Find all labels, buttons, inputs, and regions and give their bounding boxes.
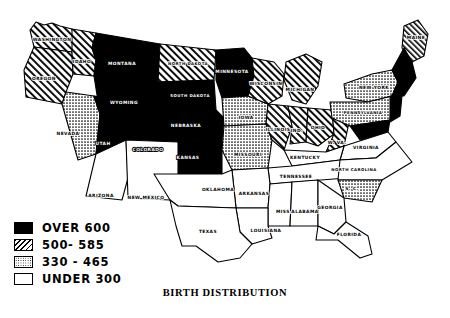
map-legend: OVER 600 500- 585 330 - 465 UNDER 300 [14, 220, 164, 288]
state-nevada [62, 92, 100, 160]
state-label-minnesota: MINNESOTA [215, 69, 248, 74]
state-label-louisiana: LOUISIANA [251, 228, 282, 233]
state-label-florida: FLORIDA [337, 232, 362, 237]
state-label-maine: MAINE [407, 35, 425, 40]
state-label-tennessee: TENNESSEE [280, 174, 313, 179]
state-label-michigan: MICHIGAN [286, 87, 315, 92]
state-label-indiana: IND. [291, 128, 303, 133]
state-alabama [290, 180, 318, 226]
state-label-south-carolina: S. C. [345, 186, 359, 191]
state-label-south-dakota: SOUTH DAKOTA [170, 93, 210, 98]
state-label-idaho: IDAHO [73, 59, 91, 64]
legend-item-330-465: 330 - 465 [14, 254, 164, 270]
legend-swatch-500-585 [14, 239, 33, 251]
state-new-jersey-delaware-maryland [390, 96, 402, 122]
state-label-wyoming: WYOMING [110, 100, 138, 105]
state-michigan [284, 54, 322, 104]
birth-distribution-map: WASHINGTONOREGONIDAHOMONTANANORTH DAKOTA… [0, 0, 450, 318]
state-label-alabama: ALABAMA [291, 209, 318, 214]
state-montana [92, 33, 160, 82]
state-label-kentucky: KENTUCKY [290, 155, 320, 160]
legend-swatch-330-465 [14, 256, 33, 268]
state-label-kansas: KANSAS [177, 155, 200, 160]
state-label-mississippi: MISS. [276, 209, 292, 214]
legend-item-under-300: UNDER 300 [14, 271, 164, 287]
legend-item-over-600: OVER 600 [14, 220, 164, 236]
state-label-virginia: VIRGINIA [353, 145, 379, 150]
state-label-utah: UTAH [95, 141, 110, 146]
state-label-montana: MONTANA [108, 61, 136, 66]
state-arkansas [232, 168, 270, 208]
state-missouri [222, 124, 272, 170]
state-label-nevada: NEVADA [57, 131, 80, 136]
state-label-north-carolina: NORTH CAROLINA [331, 167, 376, 172]
state-label-georgia: GEORGIA [317, 205, 343, 210]
state-label-colorado: COLORADO [132, 147, 163, 152]
legend-label-over-600: OVER 600 [42, 221, 111, 235]
legend-label-500-585: 500- 585 [42, 238, 104, 252]
state-label-arkansas: ARKANSAS [239, 191, 270, 196]
state-label-nebraska: NEBRASKA [171, 123, 202, 128]
state-idaho [72, 29, 96, 76]
state-mississippi [268, 182, 292, 226]
state-label-illinois: ILLINOIS [266, 127, 291, 132]
figure-title: BIRTH DISTRIBUTION [0, 287, 450, 298]
state-label-oregon: OREGON [32, 76, 56, 81]
legend-label-under-300: UNDER 300 [42, 272, 122, 286]
state-label-north-dakota: NORTH DAKOTA [168, 61, 208, 66]
state-label-arizona: ARIZONA [88, 193, 114, 198]
state-label-iowa: IOWA [238, 115, 253, 120]
legend-swatch-under-300 [14, 273, 33, 285]
state-label-texas: TEXAS [199, 229, 217, 234]
state-label-west-virginia: W. VA. [328, 140, 347, 145]
state-label-missouri: MISSOURI [234, 152, 262, 157]
state-label-pennsylvania: PENNSYLVANIA [344, 110, 382, 115]
legend-swatch-over-600 [14, 222, 33, 234]
state-label-new-mexico: NEW MEXICO [128, 195, 165, 200]
state-label-ohio: OHIO [311, 125, 326, 130]
legend-label-330-465: 330 - 465 [42, 255, 109, 269]
state-label-wisconsin: WISCONSIN [250, 81, 283, 86]
state-colorado [126, 100, 180, 142]
legend-item-500-585: 500- 585 [14, 237, 164, 253]
state-label-new-york: NEW YORK [359, 85, 389, 90]
state-label-oklahoma: OKLAHOMA [202, 187, 234, 192]
state-label-washington: WASHINGTON [33, 37, 72, 42]
